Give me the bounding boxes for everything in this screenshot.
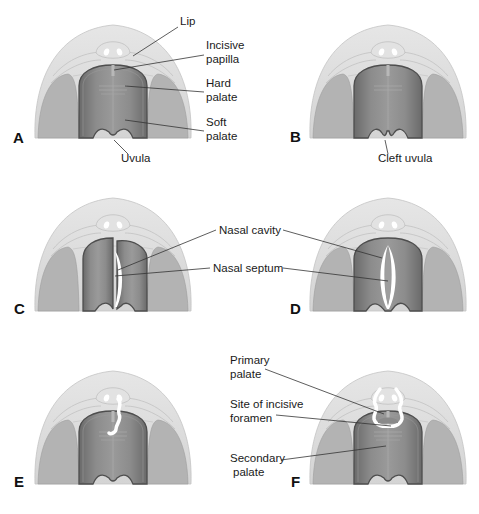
label-hard-palate-line1: Hard	[206, 76, 231, 90]
label-soft-palate-line1: Soft	[206, 115, 226, 129]
panel-letter-a: A	[13, 129, 24, 146]
panel-b-diagram	[310, 25, 466, 138]
label-incisive-foramen-line1: Site of incisive	[230, 397, 304, 411]
label-primary-palate-line1: Primary	[230, 353, 270, 367]
label-incisive-foramen-line2: foramen	[230, 411, 272, 425]
label-secondary-palate-line1: Secondary	[230, 451, 285, 465]
label-hard-palate-line2: palate	[206, 90, 237, 104]
panel-letter-d: D	[290, 300, 301, 317]
panel-f-diagram	[310, 371, 466, 484]
label-lip: Lip	[180, 14, 195, 28]
panel-d-diagram	[310, 198, 466, 311]
panel-e-diagram	[35, 371, 191, 484]
label-uvula: Uvula	[121, 151, 150, 165]
panel-c-diagram	[35, 198, 191, 311]
panel-letter-f: F	[291, 473, 300, 490]
panel-letter-c: C	[14, 300, 25, 317]
label-primary-palate-line2: palate	[230, 367, 261, 381]
label-soft-palate-line2: palate	[206, 129, 237, 143]
panel-letter-b: B	[290, 128, 301, 145]
label-incisive-papilla-line1: Incisive	[206, 38, 244, 52]
label-secondary-palate-line2: palate	[233, 465, 264, 479]
panel-a-diagram	[35, 25, 191, 138]
label-nasal-septum: Nasal septum	[213, 261, 283, 275]
label-incisive-papilla-line2: papilla	[206, 52, 239, 66]
palate-diagram-figure	[0, 0, 479, 514]
panel-letter-e: E	[14, 473, 24, 490]
label-cleft-uvula: Cleft uvula	[378, 151, 432, 165]
label-nasal-cavity: Nasal cavity	[219, 223, 281, 237]
